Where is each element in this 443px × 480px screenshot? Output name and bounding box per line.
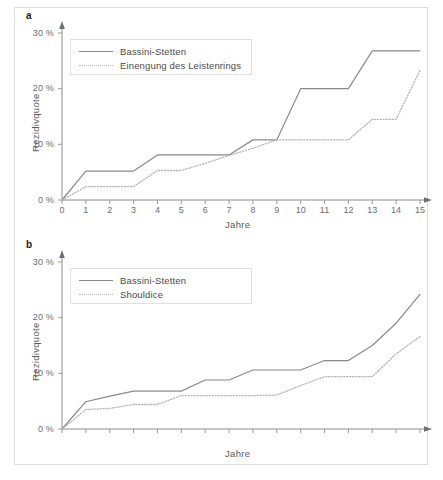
panel-b-series (62, 294, 420, 429)
dotted-line-swatch-icon (79, 65, 113, 66)
x-tick-label-4: 4 (145, 205, 169, 215)
panel-b-ytick-10: 10 % (18, 368, 54, 378)
x-tick-label-6: 6 (193, 205, 217, 215)
panel-a-ytick-0: 0 % (18, 195, 54, 205)
x-tick-label-9: 9 (265, 205, 289, 215)
figure-container: a Rezidivquote Jahre 30 % 20 % 10 % 0 % … (0, 0, 443, 480)
solid-line-swatch-icon (79, 51, 113, 52)
panel-b-legend-label-0: Bassini-Stetten (120, 275, 186, 286)
series-line (62, 70, 420, 200)
panel-b-legend-item-1: Shouldice (79, 287, 163, 301)
panel-a-ytick-10: 10 % (18, 139, 54, 149)
x-tick-label-5: 5 (169, 205, 193, 215)
x-tick-label-7: 7 (217, 205, 241, 215)
panel-a-legend-item-1: Einengung des Leistenrings (79, 58, 241, 72)
x-tick-label-0: 0 (50, 205, 74, 215)
x-tick-label-10: 10 (289, 205, 313, 215)
panel-a: a Rezidivquote Jahre 30 % 20 % 10 % 0 % … (0, 0, 443, 240)
panel-b-y-ticks (58, 262, 62, 429)
x-tick-label-15: 15 (408, 205, 432, 215)
panel-a-ytick-30: 30 % (18, 28, 54, 38)
x-tick-label-11: 11 (313, 205, 337, 215)
solid-line-swatch-icon (79, 280, 113, 281)
x-tick-label-2: 2 (98, 205, 122, 215)
panel-b-ytick-30: 30 % (18, 257, 54, 267)
panel-b-x-ticks (62, 429, 420, 433)
panel-b-ytick-0: 0 % (18, 424, 54, 434)
series-line (62, 294, 420, 429)
x-tick-label-12: 12 (336, 205, 360, 215)
panel-b-ytick-20: 20 % (18, 312, 54, 322)
panel-b-svg (0, 229, 443, 469)
panel-b-legend-item-0: Bassini-Stetten (79, 273, 186, 287)
panel-a-ytick-20: 20 % (18, 83, 54, 93)
panel-a-legend: Bassini-Stetten Einengung des Leistenrin… (70, 39, 252, 75)
panel-a-svg (0, 0, 443, 240)
panel-b-legend-label-1: Shouldice (120, 289, 163, 300)
panel-b: b Rezidivquote Jahre 30 % 20 % 10 % 0 % … (0, 229, 443, 469)
panel-b-plot (0, 229, 443, 469)
x-tick-label-13: 13 (360, 205, 384, 215)
panel-a-legend-item-0: Bassini-Stetten (79, 44, 186, 58)
panel-a-legend-label-1: Einengung des Leistenrings (120, 60, 241, 71)
x-tick-label-14: 14 (384, 205, 408, 215)
x-tick-label-3: 3 (122, 205, 146, 215)
panel-a-legend-label-0: Bassini-Stetten (120, 46, 186, 57)
panel-a-x-ticks (62, 200, 420, 204)
x-tick-label-1: 1 (74, 205, 98, 215)
dotted-line-swatch-icon (79, 294, 113, 295)
x-tick-label-8: 8 (241, 205, 265, 215)
panel-a-y-ticks (58, 33, 62, 200)
panel-b-legend: Bassini-Stetten Shouldice (70, 268, 252, 304)
panel-a-plot (0, 0, 443, 240)
panel-b-x-axis-label: Jahre (225, 448, 250, 459)
series-line (62, 337, 420, 429)
